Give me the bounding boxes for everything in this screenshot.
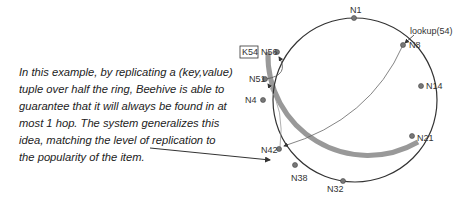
label-n51: N51 (249, 74, 266, 84)
node-n38 (293, 163, 298, 168)
replication-arc (268, 52, 418, 155)
node-n14 (419, 84, 424, 89)
label-n8: N8 (409, 40, 421, 50)
key-label: K54 (242, 47, 258, 57)
node-n32 (341, 179, 346, 184)
chord-ring-diagram: N1 N8 N14 N21 N32 N38 N42 N4 N51 N56 K54… (0, 0, 466, 197)
label-n56: N56 (261, 47, 278, 57)
caption-pointer-arrow (150, 148, 270, 160)
node-n1 (352, 16, 357, 21)
label-n1: N1 (350, 5, 362, 15)
lookup-label: lookup(54) (410, 26, 453, 36)
label-n38: N38 (291, 173, 308, 183)
node-n4 (261, 98, 266, 103)
label-n14: N14 (426, 81, 443, 91)
label-n21: N21 (417, 133, 434, 143)
node-n21 (410, 134, 415, 139)
label-n32: N32 (327, 184, 344, 194)
label-n42: N42 (261, 145, 278, 155)
node-n8 (401, 43, 406, 48)
label-n4: N4 (245, 95, 257, 105)
